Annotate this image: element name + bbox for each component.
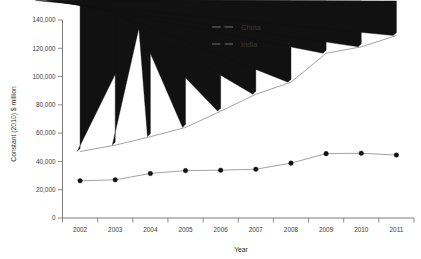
series-india [78, 151, 399, 183]
x-tick-label: 2009 [319, 226, 334, 233]
x-tick-label: 2010 [354, 226, 369, 233]
data-point-india-2010 [359, 151, 364, 156]
y-tick-label: 100,000 [32, 73, 56, 80]
y-tick-label: 0 [52, 214, 56, 221]
legend-label-india: India [241, 40, 258, 49]
x-tick-label: 2011 [390, 226, 404, 233]
series-china [36, 0, 397, 151]
data-point-india-2006 [218, 168, 223, 173]
data-point-india-2008 [289, 161, 294, 166]
y-tick-label: 140,000 [32, 16, 56, 23]
data-series-group [36, 0, 399, 183]
data-point-india-2004 [148, 171, 153, 176]
data-point-india-2005 [183, 168, 188, 173]
y-axis-tick-labels: 020,00040,00060,00080,000100,000120,0001… [32, 16, 56, 221]
legend-marker-india [220, 42, 225, 47]
data-point-india-2003 [113, 178, 118, 183]
y-tick-label: 60,000 [36, 129, 56, 136]
y-axis-title: Constant (2010) $ million [10, 86, 18, 162]
x-axis-title: Year [234, 246, 248, 253]
x-tick-label: 2007 [249, 226, 264, 233]
x-tick-label: 2003 [108, 226, 123, 233]
line-chart: 020,00040,00060,00080,000100,000120,0001… [0, 0, 421, 259]
x-tick-label: 2005 [178, 226, 193, 233]
data-point-india-2011 [394, 153, 399, 158]
legend-label-china: China [241, 23, 262, 32]
chart-canvas: 020,00040,00060,00080,000100,000120,0001… [0, 0, 421, 259]
y-tick-label: 40,000 [36, 158, 56, 165]
data-point-india-2009 [324, 151, 329, 156]
x-tick-label: 2002 [73, 226, 88, 233]
data-point-india-2007 [254, 167, 259, 172]
x-axis-tick-labels: 2002200320042005200620072008200920102011 [73, 226, 404, 233]
y-tick-label: 20,000 [36, 186, 56, 193]
x-tick-label: 2006 [214, 226, 229, 233]
data-point-india-2002 [78, 179, 83, 184]
y-tick-label: 80,000 [36, 101, 56, 108]
y-tick-label: 120,000 [32, 45, 56, 52]
series-line-india [80, 153, 396, 181]
x-tick-label: 2008 [284, 226, 299, 233]
x-tick-label: 2004 [143, 226, 158, 233]
